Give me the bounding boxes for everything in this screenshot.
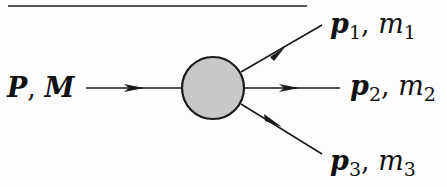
outgoing-label-1: p1, m1 xyxy=(330,10,416,42)
interaction-blob xyxy=(182,57,244,119)
outgoing-arrow-3-icon xyxy=(264,114,282,127)
incoming-label: P, M xyxy=(7,74,74,101)
outgoing-line-3 xyxy=(241,104,322,154)
outgoing-label-3: p3, m3 xyxy=(330,147,416,179)
outgoing-label-2: p2, m2 xyxy=(350,72,436,104)
outgoing-line-1 xyxy=(241,25,322,72)
